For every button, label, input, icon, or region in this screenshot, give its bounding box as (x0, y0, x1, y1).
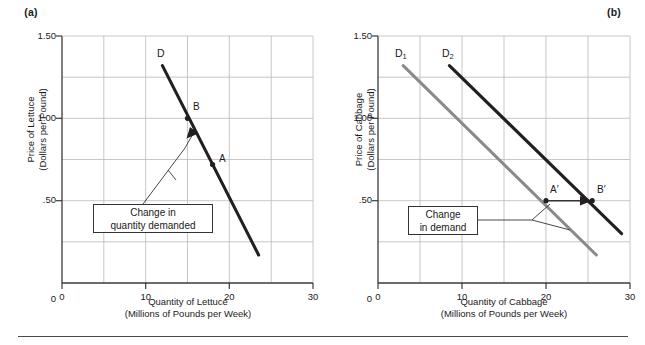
curve-label-d1: D1 (395, 47, 407, 59)
panel-a-y-axis-line1: Price of Lettuce (25, 97, 36, 163)
panel-b-y-axis-title: Price of Cabbage (Dollars per Pound) (353, 55, 376, 205)
point-label-a-prime: A′ (550, 184, 559, 195)
callout-change-in-demand: Change in demand (408, 206, 478, 235)
point-label-b-prime: B′ (597, 184, 606, 195)
callout-a-line1: Change in (130, 207, 176, 218)
point-marker-a-prime (543, 198, 548, 203)
point-marker-a (210, 162, 215, 167)
callout-change-in-quantity-demanded: Change in quantity demanded (93, 204, 213, 233)
curve-label-d2-sub: 2 (450, 52, 454, 61)
ytick-marks-a (56, 36, 62, 201)
curve-label-d2-text: D (442, 47, 450, 59)
point-marker-b (185, 116, 190, 121)
panel-b-y-axis-line2: (Dollars per Pound) (364, 88, 375, 170)
panel-a-x-axis-title: Quantity of Lettuce (Millions of Pounds … (62, 296, 314, 320)
curve-label-d-text: D (157, 47, 165, 59)
point-label-b: B (193, 101, 200, 112)
panel-a-y-axis-line2: (Dollars per Pound) (36, 88, 47, 170)
figure-bottom-rule (18, 336, 628, 337)
xtick-marks-a (62, 283, 313, 289)
panel-b-x-axis-title: Quantity of Cabbage (Millions of Pounds … (378, 296, 630, 320)
curve-label-d2: D2 (442, 47, 454, 59)
ytick-label-b-0: 1.50 (336, 30, 372, 41)
callout-a-line2: quantity demanded (110, 220, 195, 231)
panel-b: (b) (322, 0, 644, 345)
panel-a-y-axis-title: Price of Lettuce (Dollars per Pound) (25, 55, 48, 205)
panel-b-x-axis-line2: (Millions of Pounds per Week) (441, 308, 568, 319)
figure-container: (a) (0, 0, 645, 345)
point-label-a: A (219, 153, 226, 164)
panel-a-x-axis-line2: (Millions of Pounds per Week) (125, 308, 252, 319)
xtick-marks-b (378, 283, 630, 289)
panel-b-x-axis-line1: Quantity of Cabbage (460, 296, 547, 307)
panel-b-y-axis-line1: Price of Cabbage (353, 93, 364, 166)
panel-a: (a) (0, 0, 322, 345)
callout-b-line2: in demand (420, 222, 467, 233)
curve-label-d1-sub: 1 (403, 52, 407, 61)
panel-a-x-axis-line1: Quantity of Lettuce (148, 296, 228, 307)
callout-b-line1: Change (425, 209, 460, 220)
callout-arrow-a (143, 127, 199, 204)
curve-label-d: D (157, 47, 165, 59)
ytick-label-a-0: 1.50 (20, 30, 56, 41)
curve-label-d1-text: D (395, 47, 403, 59)
